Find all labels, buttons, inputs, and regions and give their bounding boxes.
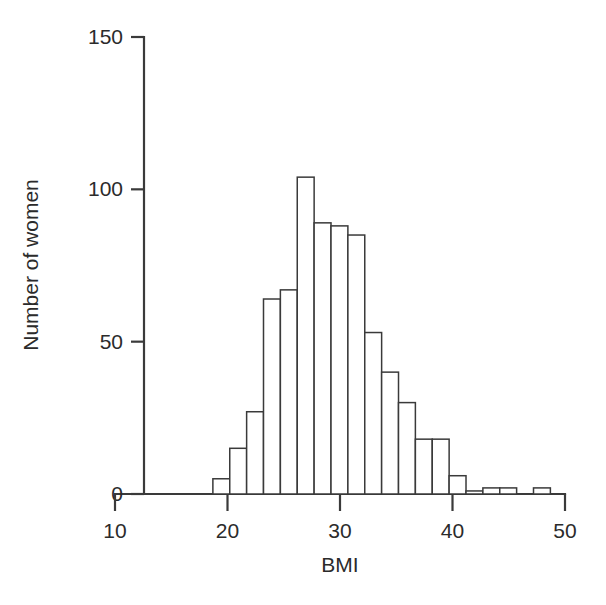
histogram-bar	[483, 488, 500, 494]
chart-page: 150 100 50 0 10 20 30 40 50 BMI Number o…	[0, 0, 606, 605]
histogram-bar	[382, 372, 399, 494]
x-tick-label-50: 50	[553, 519, 576, 542]
y-axis-title: Number of women	[19, 179, 42, 351]
histogram-bar	[230, 448, 247, 494]
histogram-bar	[331, 226, 348, 494]
histogram-bar	[213, 479, 230, 494]
x-axis-ticks	[115, 494, 565, 511]
x-tick-label-20: 20	[216, 519, 239, 542]
x-axis-title: BMI	[321, 553, 358, 576]
bmi-histogram: 150 100 50 0 10 20 30 40 50 BMI Number o…	[0, 0, 606, 605]
y-axis-ticks	[131, 37, 144, 494]
x-tick-label-30: 30	[328, 519, 351, 542]
y-tick-label-150: 150	[88, 25, 123, 48]
histogram-bar	[247, 412, 264, 494]
y-tick-label-50: 50	[100, 330, 123, 353]
x-tick-label-40: 40	[441, 519, 464, 542]
histogram-bar	[500, 488, 517, 494]
histogram-bar	[415, 439, 432, 494]
histogram-bar	[297, 177, 314, 494]
histogram-bar	[534, 488, 551, 494]
histogram-bar	[365, 333, 382, 494]
y-tick-label-100: 100	[88, 177, 123, 200]
histogram-bar	[432, 439, 449, 494]
histogram-bar	[314, 223, 331, 494]
histogram-bar	[280, 290, 297, 494]
histogram-bar	[399, 403, 416, 494]
histogram-bar	[466, 491, 483, 494]
y-tick-label-0: 0	[111, 482, 123, 505]
histogram-bar	[449, 476, 466, 494]
x-tick-label-10: 10	[103, 519, 126, 542]
histogram-bar	[348, 235, 365, 494]
histogram-bars	[213, 177, 551, 494]
histogram-bar	[264, 299, 281, 494]
